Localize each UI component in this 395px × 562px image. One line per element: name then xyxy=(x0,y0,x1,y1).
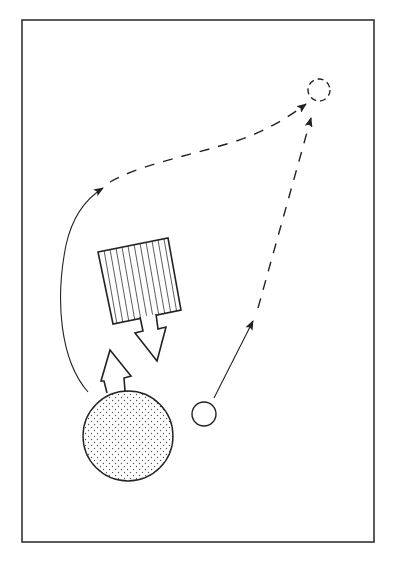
frame-border xyxy=(22,20,374,542)
hatched-square xyxy=(98,238,181,330)
block-arrow-up-icon xyxy=(101,350,131,393)
dashed-target-circle xyxy=(308,79,330,101)
curved-path-dashed xyxy=(110,104,306,182)
stippled-circle xyxy=(83,391,173,481)
small-circle xyxy=(192,402,216,426)
straight-path-solid xyxy=(214,321,253,398)
curved-path-solid xyxy=(61,188,103,392)
straight-path-dashed xyxy=(258,118,311,308)
block-arrow-down-icon xyxy=(135,314,166,361)
diagram-canvas xyxy=(0,0,395,562)
